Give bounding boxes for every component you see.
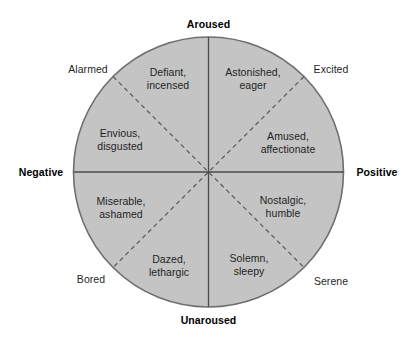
octant-label-nostalgic-humble: Nostalgic, humble [260, 194, 307, 219]
axis-label-aroused: Aroused [187, 18, 230, 31]
axis-label-negative: Negative [19, 166, 64, 179]
axis-label-positive: Positive [356, 166, 397, 179]
octant-label-amused-affectionate: Amused, affectionate [261, 130, 316, 155]
diagonal-label-serene: Serene [314, 275, 348, 288]
diagonal-label-bored: Bored [77, 273, 105, 286]
octant-label-dazed-lethargic: Dazed, lethargic [149, 253, 189, 278]
octant-label-astonished-eager: Astonished, eager [225, 66, 280, 91]
octant-label-miserable-ashamed: Miserable, ashamed [97, 195, 146, 220]
diagonal-label-alarmed: Alarmed [68, 63, 107, 76]
diagonal-label-excited: Excited [314, 63, 349, 76]
octant-label-envious-disgusted: Envious, disgusted [97, 127, 142, 152]
octant-label-solemn-sleepy: Solemn, sleepy [230, 252, 269, 277]
octant-label-defiant-incensed: Defiant, incensed [147, 66, 189, 91]
circumplex-diagram: Aroused Unaroused Negative Positive Alar… [0, 0, 416, 340]
axis-label-unaroused: Unaroused [181, 314, 237, 327]
